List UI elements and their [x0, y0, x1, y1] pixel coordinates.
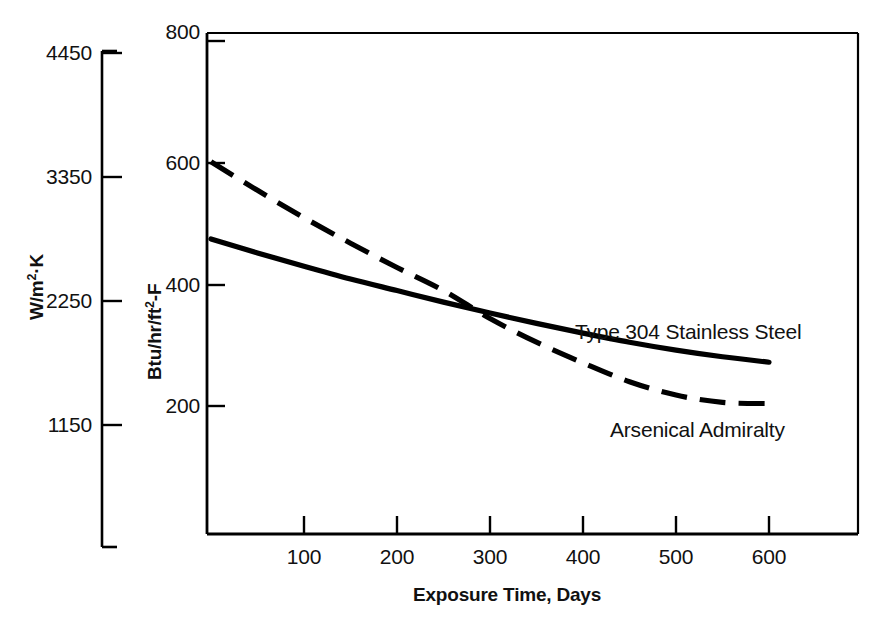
x-tick-label-300: 300 — [464, 545, 516, 569]
secondary-tick-label-3350: 3350 — [18, 165, 92, 189]
x-tick-label-600: 600 — [743, 545, 795, 569]
secondary-axis-title-superscript: 2 — [25, 274, 39, 281]
y-axis-title-superscript: 2 — [143, 301, 157, 308]
y-axis-ticks — [207, 41, 225, 406]
y-tick-label-200: 200 — [122, 394, 200, 418]
x-tick-label-500: 500 — [650, 545, 702, 569]
y-tick-label-800: 800 — [122, 20, 200, 44]
secondary-axis-title-prefix: W/m — [26, 280, 47, 320]
x-tick-label-100: 100 — [278, 545, 330, 569]
y-axis-title: Btu/hr/ft2-F — [144, 284, 166, 380]
plot-frame — [207, 33, 858, 534]
x-axis-ticks — [304, 516, 769, 534]
x-tick-label-200: 200 — [371, 545, 423, 569]
series-line-arsenical-admiralty — [211, 162, 769, 404]
x-axis-title: Exposure Time, Days — [413, 584, 601, 606]
secondary-axis-title: W/m2·K — [26, 254, 48, 320]
y-tick-label-600: 600 — [122, 151, 200, 175]
secondary-tick-label-1150: 1150 — [18, 413, 92, 437]
y-axis-title-suffix: -F — [144, 284, 165, 302]
secondary-axis-title-suffix: ·K — [26, 254, 47, 274]
chart-figure: 4450 3350 2250 1150 W/m2·K 800 600 400 2… — [0, 0, 877, 619]
secondary-tick-label-4450: 4450 — [18, 41, 92, 65]
y-axis-title-prefix: Btu/hr/ft — [144, 308, 165, 380]
series-label-type-304-stainless-steel: Type 304 Stainless Steel — [575, 320, 801, 344]
chart-plot-svg — [0, 0, 877, 619]
x-tick-label-400: 400 — [557, 545, 609, 569]
series-label-arsenical-admiralty: Arsenical Admiralty — [610, 418, 785, 442]
secondary-axis-bracket — [102, 51, 122, 547]
